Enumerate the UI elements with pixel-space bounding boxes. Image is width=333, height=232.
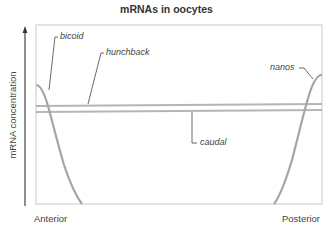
series-nanos (274, 75, 322, 204)
series-caudal (36, 110, 322, 112)
y-axis-label: mRNA concentration (7, 71, 18, 158)
series-hunchback (36, 104, 322, 106)
y-axis-arrow-icon (23, 26, 28, 33)
caudal-leader (192, 112, 197, 143)
x-label-posterior: Posterior (282, 213, 320, 224)
hunchback-leader (88, 53, 104, 104)
plot-frame (36, 25, 322, 204)
bicoid-leader (49, 37, 58, 90)
label-bicoid: bicoid (60, 31, 84, 41)
chart-plot (0, 0, 333, 232)
series-bicoid (36, 85, 82, 204)
nanos-leader (299, 68, 313, 79)
label-nanos: nanos (270, 62, 295, 72)
label-caudal: caudal (200, 137, 227, 147)
x-label-anterior: Anterior (34, 213, 67, 224)
label-hunchback: hunchback (106, 47, 150, 57)
